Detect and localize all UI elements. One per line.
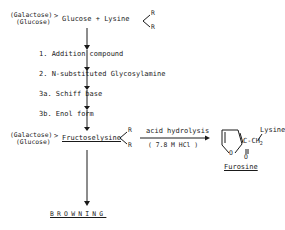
- reactant-label: Glucose + Lysine: [62, 16, 129, 23]
- ring-oxygen: O: [229, 150, 233, 156]
- brace-symbol: >: [54, 13, 58, 20]
- r-group-product-bottom: R: [128, 142, 132, 148]
- r-group-bottom: R: [151, 24, 155, 30]
- side-chain: C-CH2: [243, 138, 263, 146]
- step-enol-form: 3b. Enol form: [39, 111, 94, 118]
- sugar-glucose-top: (Glucose): [16, 19, 51, 25]
- brace-symbol-product: >: [54, 133, 58, 140]
- furosine-label: Furosine: [224, 164, 258, 171]
- step-schiff-base: 3a. Schiff base: [39, 91, 102, 98]
- acid-hydrolysis-label: acid hydrolysis: [146, 128, 209, 135]
- browning-label: BROWNING: [50, 211, 106, 217]
- r-group-top: R: [151, 10, 155, 16]
- sugar-glucose-product: (Glucose): [16, 139, 51, 145]
- step-glycosylamine: 2. N-substituted Glycosylamine: [39, 71, 165, 78]
- fructoselysine-label: Fructoselysine: [62, 135, 121, 142]
- step-addition-compound: 1. Addition compound: [39, 51, 123, 58]
- hcl-condition-label: ( 7.8 M HCl ): [148, 142, 198, 148]
- carbonyl-oxygen: O: [244, 154, 248, 160]
- r-group-product-top: R: [128, 127, 132, 133]
- lysine-substituent: Lysine: [260, 127, 285, 134]
